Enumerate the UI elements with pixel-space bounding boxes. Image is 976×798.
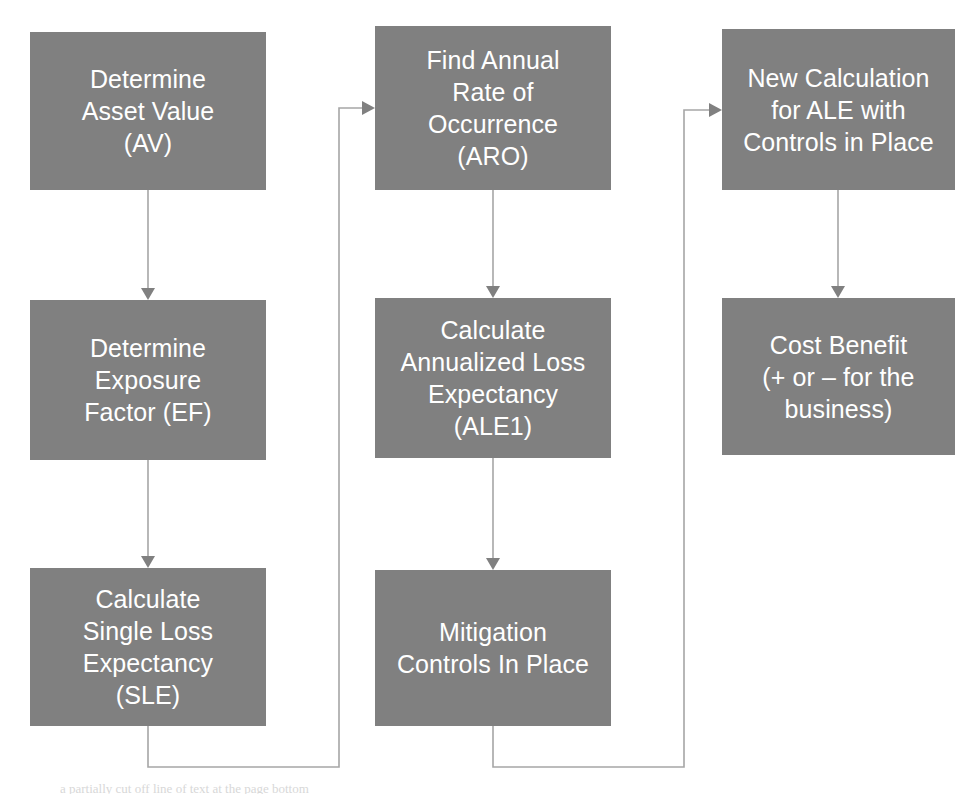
node-determine-exposure-factor[interactable]: Determine Exposure Factor (EF) [30, 300, 266, 460]
edge-aro-to-ale1 [486, 190, 500, 298]
node-find-annual-rate-of-occurrence[interactable]: Find Annual Rate of Occurrence (ARO) [375, 26, 611, 190]
node-determine-asset-value[interactable]: Determine Asset Value (AV) [30, 32, 266, 190]
node-calculate-single-loss-expectancy[interactable]: Calculate Single Loss Expectancy (SLE) [30, 568, 266, 726]
node-calculate-annualized-loss-expectancy[interactable]: Calculate Annualized Loss Expectancy (AL… [375, 298, 611, 458]
edge-newale-to-cb [831, 190, 845, 298]
node-mitigation-controls-in-place[interactable]: Mitigation Controls In Place [375, 570, 611, 726]
edge-ale1-to-mcp [486, 458, 500, 570]
edge-ef-to-sle [141, 460, 155, 568]
page-bottom-cropped-text: a partially cut off line of text at the … [60, 784, 620, 794]
edge-av-to-ef [141, 190, 155, 300]
flowchart-canvas: Determine Asset Value (AV) Determine Exp… [0, 0, 976, 798]
node-new-calculation-for-ale-with-controls[interactable]: New Calculation for ALE with Controls in… [722, 29, 955, 190]
node-cost-benefit[interactable]: Cost Benefit (+ or – for the business) [722, 298, 955, 455]
